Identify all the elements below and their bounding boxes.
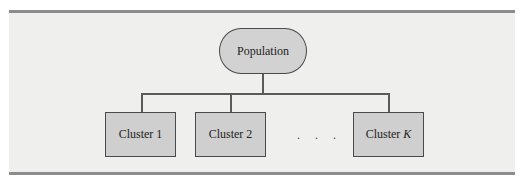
bottom-rule (9, 172, 515, 175)
top-rule (9, 10, 515, 13)
population-node: Population (219, 28, 307, 74)
cluster-1-label: Cluster 1 (119, 127, 163, 142)
ellipsis: . . . (297, 128, 342, 143)
cluster-2-label: Cluster 2 (209, 127, 253, 142)
root-connector (262, 73, 264, 94)
cluster-k-label: Cluster K (366, 127, 412, 142)
horizontal-connector (141, 93, 390, 95)
cluster-k-node: Cluster K (353, 112, 424, 157)
population-label: Population (237, 44, 289, 59)
cluster-2-node: Cluster 2 (195, 112, 266, 157)
cluster-1-node: Cluster 1 (105, 112, 176, 157)
cluster-k-connector (388, 93, 390, 112)
cluster-k-variable: K (403, 127, 411, 141)
cluster-1-connector (141, 93, 143, 112)
cluster-k-label-text: Cluster (366, 127, 404, 141)
cluster-2-connector (230, 93, 232, 112)
